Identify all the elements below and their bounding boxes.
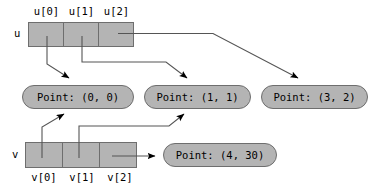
point-object-3-2: Point: (3, 2) — [261, 85, 368, 109]
arrow-u2-to-point-3-2 — [118, 34, 298, 79]
point-object-label: Point: (0, 0) — [37, 92, 119, 103]
point-object-4-30: Point: (4, 30) — [163, 143, 277, 167]
point-object-label: Point: (1, 1) — [156, 92, 238, 103]
point-object-1-1: Point: (1, 1) — [144, 85, 251, 109]
point-object-label: Point: (4, 30) — [176, 150, 265, 161]
array-u-cell-0 — [29, 23, 64, 47]
point-object-label: Point: (3, 2) — [273, 92, 355, 103]
array-u-box — [29, 23, 134, 47]
array-v-cell-2 — [100, 143, 137, 168]
point-object-0-0: Point: (0, 0) — [22, 85, 134, 109]
array-v-cell-1 — [63, 143, 100, 168]
array-v-cell-0 — [26, 143, 63, 168]
array-u-cell-2 — [99, 23, 134, 47]
array-u-cell-1 — [64, 23, 99, 47]
diagram-canvas: u[0] u[1] u[2] u v[0] v[1] v[2] v — [0, 0, 376, 196]
